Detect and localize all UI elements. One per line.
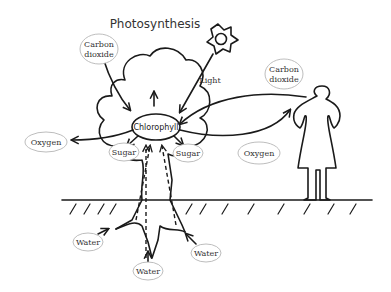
- sugar-right-arrow: [174, 136, 183, 145]
- sugar-right-bubble: Sugar: [173, 144, 203, 162]
- svg-text:Water: Water: [76, 238, 100, 247]
- svg-text:Oxygen: Oxygen: [31, 138, 62, 147]
- svg-text:Water: Water: [136, 267, 160, 276]
- photosynthesis-diagram: Photosynthesis Light Chlorophyll: [0, 0, 391, 292]
- diagram-title: Photosynthesis: [110, 17, 201, 31]
- svg-text:Carbon: Carbon: [269, 65, 299, 74]
- svg-text:Water: Water: [194, 249, 218, 258]
- person-icon: [294, 86, 340, 200]
- oxygen-left-bubble: Oxygen: [25, 132, 67, 152]
- water-left-arrow: [98, 229, 108, 234]
- co2-right-bubble: Carbon dioxide: [265, 59, 303, 89]
- sugar-left-bubble: Sugar: [109, 143, 139, 161]
- water-center-bubble: Water: [133, 262, 163, 280]
- co2-left-arrow: [103, 58, 130, 110]
- diagram-svg: Photosynthesis Light Chlorophyll: [0, 0, 391, 292]
- oxygen-to-person-arrow: [180, 110, 290, 135]
- water-right-arrow: [186, 234, 196, 244]
- svg-text:Sugar: Sugar: [112, 148, 137, 157]
- svg-text:dioxide: dioxide: [84, 50, 114, 59]
- co2-from-person-arrow: [180, 94, 306, 124]
- tree-roots: [116, 223, 185, 258]
- oxygen-left-arrow: [72, 130, 133, 140]
- oxygen-right-bubble: Oxygen: [238, 142, 280, 164]
- svg-text:dioxide: dioxide: [269, 75, 299, 84]
- ground-hatching: [70, 204, 356, 214]
- sun-icon: [207, 24, 238, 54]
- chlorophyll-label: Chlorophyll: [133, 123, 178, 132]
- svg-text:Sugar: Sugar: [176, 149, 201, 158]
- water-left-bubble: Water: [73, 233, 103, 251]
- svg-text:Carbon: Carbon: [84, 40, 114, 49]
- co2-left-bubble: Carbon dioxide: [80, 34, 118, 64]
- svg-text:Oxygen: Oxygen: [244, 149, 275, 158]
- water-right-bubble: Water: [191, 244, 221, 262]
